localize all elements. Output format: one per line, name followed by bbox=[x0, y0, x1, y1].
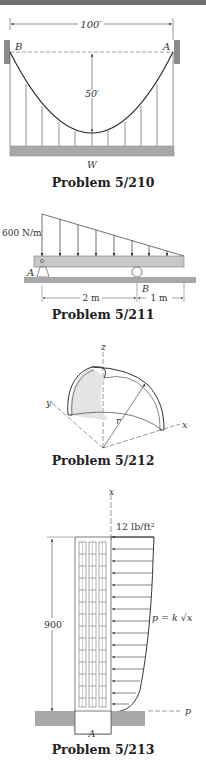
figures-canvas: 100′ B A 50′ W bbox=[0, 0, 206, 778]
p-axis-label: p bbox=[185, 705, 191, 716]
pressure-law-label: p = k √x bbox=[152, 612, 193, 623]
x-axis-label: x bbox=[182, 419, 188, 430]
sag-dimension-label: 50′ bbox=[85, 88, 100, 99]
deck bbox=[10, 146, 174, 156]
base-a-label: A bbox=[88, 728, 96, 739]
figure-5-210-cable: 100′ B A 50′ W bbox=[4, 18, 180, 170]
figure-5-211-beam: 600 N/m A B 2 m 1 m bbox=[2, 214, 196, 303]
caption-problem-5-213: Problem 5/213 bbox=[0, 742, 206, 757]
x-axis-label: x bbox=[109, 487, 114, 497]
left-wall-support bbox=[4, 40, 10, 64]
support-b-label: B bbox=[14, 41, 22, 52]
dim-1m-label: 1 m bbox=[150, 293, 168, 303]
ground bbox=[24, 277, 196, 283]
z-axis-label: z bbox=[100, 341, 107, 352]
roller-support-b bbox=[132, 267, 142, 277]
caption-problem-5-212: Problem 5/212 bbox=[0, 453, 206, 468]
beam bbox=[34, 256, 184, 267]
building bbox=[75, 537, 111, 734]
right-wall-support bbox=[174, 40, 180, 64]
caption-problem-5-211: Problem 5/211 bbox=[0, 307, 206, 322]
dim-2m-label: 2 m bbox=[82, 293, 100, 303]
span-dimension-label: 100′ bbox=[80, 19, 102, 30]
load-intensity-label: 600 N/m bbox=[2, 228, 42, 238]
support-a-label: A bbox=[26, 267, 34, 278]
pressure-arrows bbox=[112, 537, 154, 704]
y-axis-label: y bbox=[45, 397, 52, 408]
pin-support-a bbox=[37, 267, 49, 277]
height-dimension-label: 900′ bbox=[44, 619, 64, 630]
support-a-label: A bbox=[162, 41, 170, 52]
pressure-profile bbox=[111, 537, 154, 712]
figure-5-213-building: x 12 lb/ft² 900′ bbox=[35, 487, 193, 739]
caption-problem-5-210: Problem 5/210 bbox=[0, 175, 206, 190]
top-pressure-label: 12 lb/ft² bbox=[116, 521, 155, 532]
support-b-label: B bbox=[141, 283, 149, 294]
figure-5-212-dome: z y x r bbox=[45, 341, 188, 448]
hanger-rods bbox=[10, 52, 173, 146]
load-arrows bbox=[60, 219, 167, 256]
load-w-label: W bbox=[87, 159, 98, 170]
